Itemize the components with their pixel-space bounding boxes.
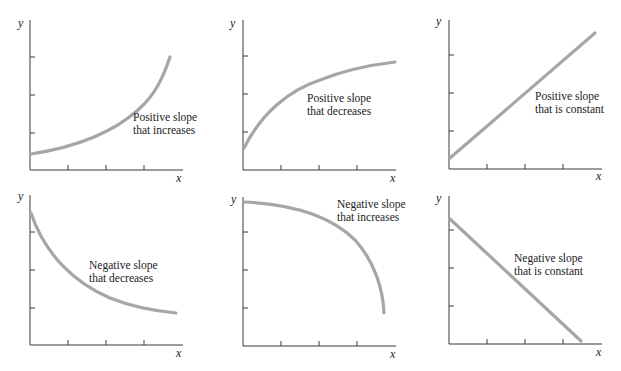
x-axis-label: x <box>595 169 602 183</box>
x-ticks <box>68 340 144 345</box>
y-ticks <box>30 232 35 308</box>
panel-negative-increasing: y x Negative slope that increases <box>230 192 406 361</box>
y-ticks <box>449 230 454 306</box>
y-axis-label: y <box>230 192 237 206</box>
x-ticks <box>487 339 563 344</box>
panel-label-line1: Positive slope <box>535 90 599 103</box>
x-axis-label: x <box>175 346 182 360</box>
y-axis-label: y <box>435 191 442 205</box>
x-ticks <box>281 165 357 170</box>
y-ticks <box>449 55 454 131</box>
x-axis-label: x <box>595 345 602 359</box>
y-axis-label: y <box>17 16 24 30</box>
x-axis-label: x <box>175 171 182 185</box>
y-axis-label: y <box>229 16 236 30</box>
y-axis-label: y <box>435 14 442 28</box>
slope-figure: y x Positive slope that increases y x Po… <box>0 0 621 371</box>
x-axis-label: x <box>389 171 396 185</box>
panel-label-line2: that is constant <box>535 103 605 115</box>
x-axis-label: x <box>389 347 396 361</box>
panel-negative-decreasing: y x Negative slope that decreases <box>17 189 183 360</box>
y-axis-label: y <box>17 189 24 203</box>
panel-positive-increasing: y x Positive slope that increases <box>17 16 197 185</box>
y-ticks <box>243 232 248 308</box>
panel-label-line1: Positive slope <box>133 111 197 124</box>
panel-label-line1: Positive slope <box>307 92 371 105</box>
panel-label-line1: Negative slope <box>89 259 158 272</box>
panel-negative-constant: y x Negative slope that is constant <box>435 191 602 359</box>
panel-positive-decreasing: y x Positive slope that decreases <box>229 16 396 185</box>
panel-label-line2: that increases <box>337 211 400 223</box>
panel-label-line2: that increases <box>133 124 196 136</box>
line <box>450 219 581 341</box>
x-ticks <box>281 341 357 346</box>
panel-label-line1: Negative slope <box>514 252 583 265</box>
panel-positive-constant: y x Positive slope that is constant <box>435 14 605 183</box>
panel-label-line2: that is constant <box>514 265 584 277</box>
curve <box>31 57 170 154</box>
y-ticks <box>243 56 248 132</box>
panel-label-line2: that decreases <box>89 272 154 284</box>
panel-label-line1: Negative slope <box>337 198 406 211</box>
y-ticks <box>30 57 35 133</box>
x-ticks <box>487 164 563 169</box>
x-ticks <box>68 165 144 170</box>
panel-label-line2: that decreases <box>307 105 372 117</box>
